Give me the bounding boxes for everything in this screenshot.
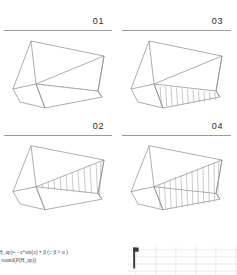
panel-02-rule: [4, 135, 112, 136]
panel-04: 04: [118, 119, 237, 229]
panel-02: 02: [0, 119, 118, 229]
mini-plot-grid: [128, 246, 237, 275]
formula-line-1: (H_up)= - a*sin(a) + β (∵ β > α ): [0, 248, 121, 256]
panel-01-drawing: [0, 34, 118, 120]
formula-line-2: = round(P(H_up)): [0, 256, 121, 264]
panel-03-drawing: [118, 34, 237, 120]
hatch-group-02: [42, 161, 101, 197]
panel-grid: 01: [0, 14, 237, 236]
formula-block: (H_up)= - a*sin(a) + β (∵ β > α ) = roun…: [0, 248, 121, 264]
panel-02-label: 02: [93, 121, 104, 131]
panel-01-header: 01: [0, 14, 118, 36]
panel-03: 03: [118, 14, 237, 119]
hatch-group-04: [159, 161, 219, 209]
panel-03-label: 03: [212, 16, 223, 26]
panel-01-label: 01: [93, 16, 104, 26]
panel-04-label: 04: [212, 121, 223, 131]
panel-02-drawing: [0, 139, 118, 225]
panel-04-rule: [122, 135, 231, 136]
panel-04-drawing: [118, 139, 237, 225]
panel-01-rule: [4, 30, 112, 31]
figure-root: 01: [0, 0, 237, 275]
panel-03-header: 03: [118, 14, 237, 36]
panel-04-header: 04: [118, 119, 237, 141]
panel-02-header: 02: [0, 119, 118, 141]
panel-01: 01: [0, 14, 118, 119]
hatch-group-03: [160, 86, 215, 108]
panel-03-rule: [122, 30, 231, 31]
bottom-strip: (H_up)= - a*sin(a) + β (∵ β > α ) = roun…: [0, 244, 237, 275]
